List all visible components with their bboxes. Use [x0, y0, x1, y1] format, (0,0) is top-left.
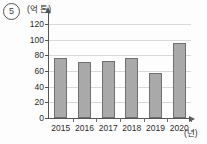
x-tick-label: 2017	[99, 123, 118, 133]
gridline	[49, 87, 191, 88]
y-tick-label: 20	[35, 97, 44, 107]
x-tick-mark	[167, 118, 168, 122]
bar-chart-figure: 5 (억 톤) (년) 020406080100120 201520162017…	[0, 0, 207, 144]
y-tick-label: 60	[35, 66, 44, 76]
gridline	[49, 55, 191, 56]
y-tick-mark	[45, 87, 49, 88]
x-tick-label: 2016	[75, 123, 94, 133]
gridline	[49, 102, 191, 103]
y-tick-mark	[45, 55, 49, 56]
x-tick-mark	[120, 118, 121, 122]
x-tick-mark	[191, 118, 192, 122]
bar	[173, 43, 186, 118]
x-tick-mark	[96, 118, 97, 122]
y-tick-mark	[45, 102, 49, 103]
y-tick-label: 80	[35, 50, 44, 60]
x-tick-mark	[144, 118, 145, 122]
gridline	[49, 24, 191, 25]
bar	[54, 58, 67, 118]
y-tick-label: 120	[30, 19, 44, 29]
bar	[78, 62, 91, 118]
y-tick-label: 0	[39, 113, 44, 123]
y-axis-arrowhead	[45, 7, 51, 13]
bar	[125, 58, 138, 118]
y-tick-mark	[45, 71, 49, 72]
problem-number-badge: 5	[3, 3, 20, 20]
bar	[102, 61, 115, 118]
x-tick-label: 2019	[146, 123, 165, 133]
y-tick-mark	[45, 24, 49, 25]
y-tick-label: 100	[30, 35, 44, 45]
x-tick-label: 2020	[170, 123, 189, 133]
gridline	[49, 71, 191, 72]
bar	[149, 73, 162, 118]
y-tick-mark	[45, 118, 49, 119]
x-tick-mark	[73, 118, 74, 122]
x-tick-label: 2018	[122, 123, 141, 133]
y-tick-label: 40	[35, 82, 44, 92]
x-tick-label: 2015	[51, 123, 70, 133]
plot-area: 020406080100120 201520162017201820192020	[49, 16, 191, 118]
gridline	[49, 40, 191, 41]
y-tick-mark	[45, 40, 49, 41]
